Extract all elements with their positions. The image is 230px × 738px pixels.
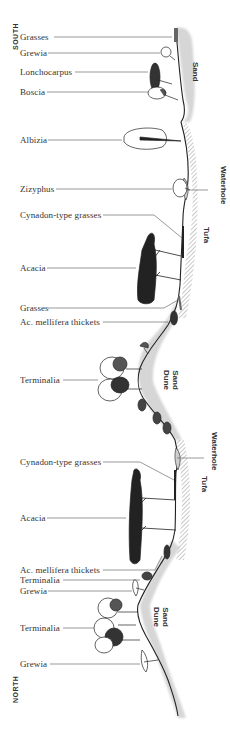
- label-grewia: Grewia: [20, 48, 47, 58]
- label-cynadon-grasses: Cynadon-type grasses: [20, 210, 101, 220]
- terrain-label-waterhole: Waterhole: [219, 166, 228, 204]
- compass-south-label: SOUTH: [11, 23, 20, 50]
- albizia-plant: [124, 128, 181, 149]
- label-mellifera-thickets: Ac. mellifera thickets: [20, 317, 100, 327]
- acacia-plant-1: [137, 233, 181, 304]
- label-albizia: Albizia: [20, 135, 47, 145]
- label-grewia: Grewia: [20, 659, 47, 669]
- label-mellifera-thickets: Ac. mellifera thickets: [20, 565, 100, 575]
- terrain-label-sand-dune: Sand Dune: [152, 607, 170, 627]
- sand-dune-line-2: Dune: [162, 370, 171, 390]
- label-cynadon-grasses: Cynadon-type grasses: [20, 457, 101, 467]
- grasses-tuft-2: [179, 296, 181, 310]
- label-grasses: Grasses: [20, 303, 49, 313]
- label-terminalia: Terminalia: [20, 623, 60, 633]
- terrain-label-tufa: Tufa: [200, 476, 209, 492]
- terminalia-plant-3: [94, 598, 140, 653]
- terminalia-plant-1: [98, 357, 142, 401]
- label-grasses: Grasses: [20, 32, 49, 42]
- label-terminalia: Terminalia: [20, 375, 60, 385]
- label-lonchocarpus: Lonchocarpus: [20, 67, 72, 77]
- terrain-label-tufa: Tufa: [202, 227, 211, 243]
- terrain-label-sand: Sand: [191, 62, 200, 82]
- sand-dune-line-1: Sand: [171, 370, 180, 390]
- lonchocarpus-plant: [150, 63, 172, 91]
- terminalia-plant-2: [142, 572, 152, 580]
- boscia-plant: [148, 87, 178, 100]
- label-zizyphus: Zizyphus: [20, 184, 54, 194]
- grewia-plant-1: [161, 47, 175, 60]
- sand-dune-line-2: Dune: [152, 607, 161, 627]
- label-terminalia: Terminalia: [20, 575, 60, 585]
- grewia-plant-2: [133, 580, 144, 596]
- grasses-strip-1: [174, 28, 178, 42]
- label-grewia: Grewia: [20, 586, 47, 596]
- mellifera-plant-2: [164, 545, 170, 559]
- terrain-label-waterhole: Waterhole: [210, 432, 219, 470]
- sand-dune-line-1: Sand: [161, 607, 170, 627]
- label-acacia: Acacia: [20, 263, 46, 273]
- label-boscia: Boscia: [20, 87, 45, 97]
- label-acacia: Acacia: [20, 513, 46, 523]
- mellifera-plant-1: [171, 311, 178, 325]
- compass-north-label: NORTH: [11, 676, 20, 703]
- terrain-label-sand-dune: Sand Dune: [162, 370, 180, 390]
